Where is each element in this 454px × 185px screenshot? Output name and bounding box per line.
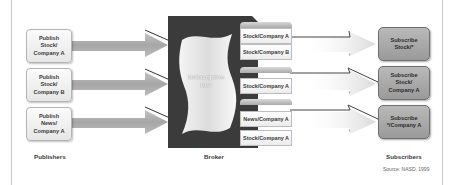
publisher-box-text: Publish News/ Company A	[34, 113, 65, 135]
subscriber-box-2: Subscribe Stock/ Company A	[378, 66, 430, 100]
topic-tab	[240, 99, 292, 105]
publisher-box-3: Publish News/ Company A	[26, 107, 72, 141]
publisher-arrow-1	[70, 33, 168, 57]
subscriber-box-text: Subscribe Stock/*	[390, 37, 417, 52]
topic-text: Stock/Company A	[243, 135, 289, 141]
subscription-list-label: Subscription List	[184, 74, 228, 89]
subscriber-box-3: Subscribe */Company A	[378, 105, 430, 139]
topic-text: Stock/Company A	[243, 83, 289, 89]
publisher-box-text: Publish Stock/ Company B	[33, 74, 64, 96]
subscriber-box-1: Subscribe Stock/*	[378, 27, 430, 61]
subscribers-label: Subscribers	[386, 153, 422, 160]
topic-box-4: News/Company A	[240, 111, 292, 127]
subscriber-box-text: Subscribe Stock/ Company A	[389, 72, 420, 94]
publisher-box-1: Publish Stock/ Company A	[26, 29, 72, 63]
broker-label: Broker	[204, 153, 224, 160]
publisher-box-text: Publish Stock/ Company A	[34, 35, 65, 57]
topic-tab	[240, 67, 292, 73]
subscriber-box-text: Subscribe */Company A	[387, 115, 422, 130]
topic-box-2: Stock/Company B	[240, 44, 292, 60]
topic-box-3: Stock/Company A	[240, 78, 292, 94]
topic-text: Stock/Company B	[243, 49, 289, 55]
publisher-box-2: Publish Stock/ Company B	[26, 68, 72, 102]
publisher-arrow-2	[70, 69, 170, 96]
publishers-label: Publishers	[34, 153, 66, 160]
source-note: Source: NASD, 1999	[383, 166, 429, 172]
publisher-arrow-3	[70, 107, 170, 134]
topic-text: Stock/Company A	[243, 33, 289, 39]
topic-text: News/Company A	[243, 116, 288, 122]
topic-box-1: Stock/Company A	[240, 28, 292, 44]
topic-box-5: Stock/Company A	[240, 130, 292, 146]
